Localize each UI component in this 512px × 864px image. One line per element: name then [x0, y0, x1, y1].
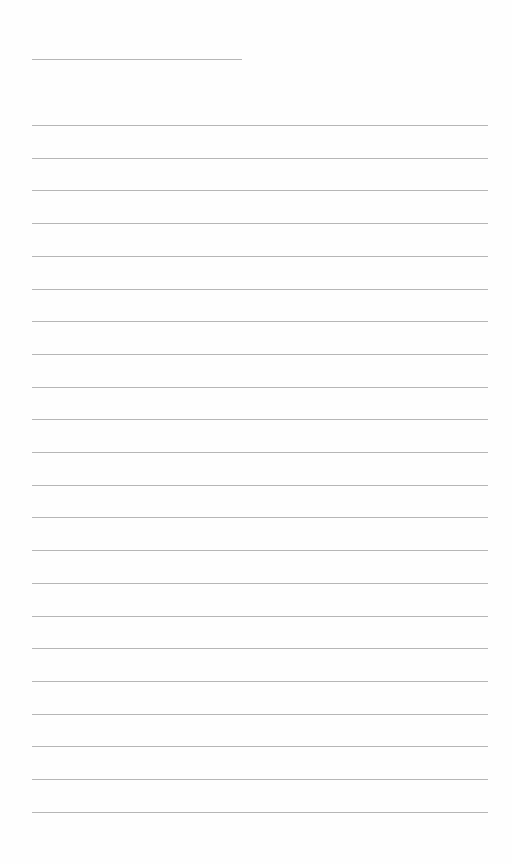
ruled-line: [32, 681, 488, 682]
ruled-line: [32, 746, 488, 747]
ruled-line: [32, 321, 488, 322]
ruled-line: [32, 387, 488, 388]
header-name-line: [32, 59, 242, 60]
ruled-line: [32, 223, 488, 224]
ruled-line: [32, 616, 488, 617]
ruled-line: [32, 354, 488, 355]
ruled-line: [32, 812, 488, 813]
ruled-line: [32, 550, 488, 551]
ruled-line: [32, 517, 488, 518]
ruled-line: [32, 125, 488, 126]
ruled-line: [32, 158, 488, 159]
ruled-line: [32, 289, 488, 290]
ruled-line: [32, 714, 488, 715]
ruled-line: [32, 779, 488, 780]
ruled-line: [32, 648, 488, 649]
ruled-line: [32, 419, 488, 420]
ruled-line: [32, 256, 488, 257]
ruled-line: [32, 452, 488, 453]
ruled-line: [32, 485, 488, 486]
ruled-line: [32, 583, 488, 584]
lined-paper-page: [0, 0, 512, 864]
ruled-line: [32, 190, 488, 191]
